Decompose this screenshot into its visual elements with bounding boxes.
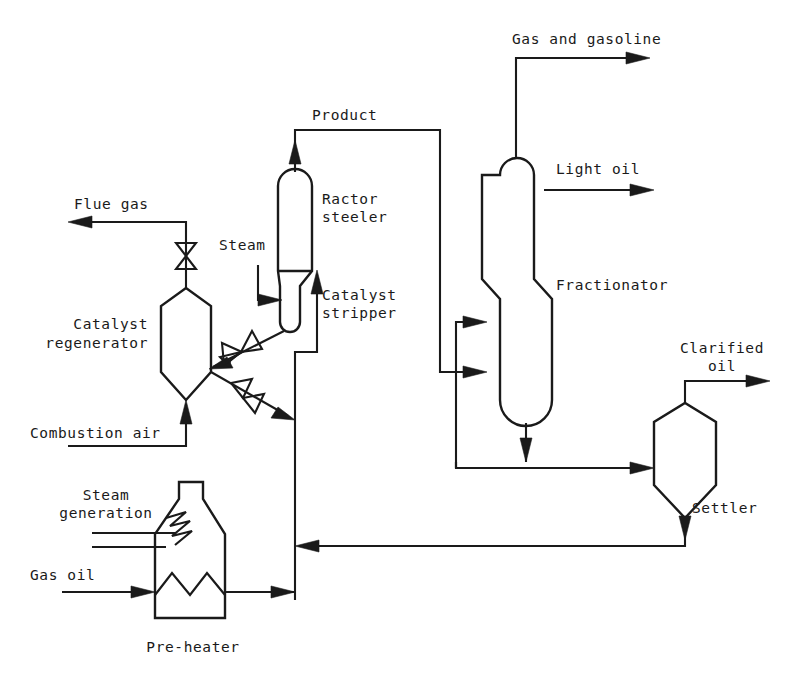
slurry-to-settler-arrowhead [630, 462, 654, 474]
process-flow-diagram: Catalyst regenerator Flue gas Combustion… [0, 0, 793, 682]
light-oil-arrowhead [630, 184, 654, 196]
pre-heater-gasoil-coil [155, 573, 225, 595]
fractionator-upper-recycle-pipe [456, 322, 473, 372]
gas-oil-label: Gas oil [30, 567, 95, 583]
catalyst-regenerator [161, 288, 211, 400]
pre-heater-label: Pre-heater [146, 639, 239, 655]
combustion-air-label: Combustion air [30, 425, 161, 441]
reactor-steeler-label-line1: Ractor [322, 191, 378, 207]
settler-bottom-down-arrowhead [679, 516, 691, 540]
catalyst-regenerator-label-line2: regenerator [45, 335, 148, 351]
fractionator-bottoms-line [520, 423, 532, 462]
reactor-steeler [278, 169, 312, 332]
preheated-feed-line [225, 586, 295, 598]
fractionator-bottoms-arrowhead [520, 438, 532, 462]
settler-recycle-arrowhead [295, 540, 319, 552]
steam-generation-label-line1: Steam [83, 487, 130, 503]
fractionator-body [482, 158, 552, 426]
pre-heater-body [155, 482, 225, 618]
product-line [289, 130, 487, 378]
fractionator-upper-recycle-arrowhead [463, 316, 487, 328]
reactor-steeler-body [278, 169, 312, 332]
settler-bottom-recycle-line [295, 516, 691, 552]
light-oil-line [544, 184, 654, 196]
preheated-feed-arrowhead [271, 586, 295, 598]
flue-gas-arrowhead [68, 216, 92, 228]
settler-label: Settler [692, 500, 757, 516]
flue-gas-line [68, 216, 196, 288]
clarified-oil-arrowhead [746, 375, 770, 387]
slurry-to-settler-pipe [456, 462, 640, 468]
product-pipe [295, 130, 473, 372]
steam-generation-label-line2: generation [59, 505, 152, 521]
flue-gas-pipe [76, 222, 186, 288]
reactor-steeler-label-line2: steeler [322, 209, 387, 225]
gas-oil-line [62, 586, 155, 598]
spent-catalyst-line [209, 331, 284, 369]
regenerated-catalyst-line [211, 372, 295, 420]
clarified-oil-label-line2: oil [708, 358, 736, 374]
settler-bottom-recycle-pipe [309, 518, 685, 546]
catalyst-stripper-label-line1: Catalyst [322, 287, 397, 303]
light-oil-label: Light oil [556, 161, 640, 177]
pre-heater-steam-coil [166, 512, 192, 545]
clarified-oil-line [685, 375, 770, 403]
fractionator-upper-recycle-line [456, 316, 487, 372]
fractionator-label: Fractionator [556, 277, 668, 293]
slurry-to-settler-line [456, 462, 654, 474]
gas-and-gasoline-label: Gas and gasoline [512, 31, 661, 47]
regenerated-catalyst-valve [231, 379, 264, 413]
steam-arrowhead [258, 294, 282, 306]
catalyst-regenerator-body [161, 288, 211, 400]
catalyst-riser-pipe [295, 282, 317, 600]
steam-generation-lines [92, 533, 176, 547]
product-arrowhead-fractionator-inlet [463, 366, 487, 378]
catalyst-stripper-label-line2: stripper [322, 305, 397, 321]
combustion-air-arrowhead [180, 400, 192, 424]
pre-heater [155, 482, 225, 618]
pfd-canvas: Catalyst regenerator Flue gas Combustion… [0, 0, 793, 682]
fractionator [482, 158, 552, 426]
catalyst-regenerator-label-line1: Catalyst [73, 316, 148, 332]
clarified-oil-label-line1: Clarified [680, 340, 764, 356]
product-label: Product [312, 107, 377, 123]
gas-and-gasoline-pipe [516, 58, 636, 158]
gas-and-gasoline-line [516, 52, 650, 158]
catalyst-riser-arrowhead [311, 270, 323, 294]
product-arrowhead-reactor-top [289, 140, 301, 164]
gas-and-gasoline-arrowhead [626, 52, 650, 64]
clarified-oil-pipe [685, 381, 755, 403]
gas-oil-arrowhead [131, 586, 155, 598]
steam-label: Steam [219, 237, 266, 253]
flue-gas-label: Flue gas [74, 196, 149, 212]
